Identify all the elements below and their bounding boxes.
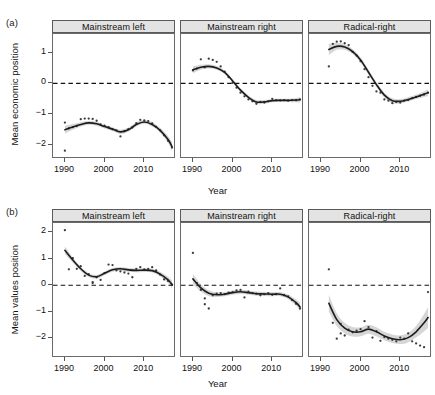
- y-tick-label-b-1: 1: [22, 252, 46, 262]
- data-point: [80, 118, 82, 120]
- data-point: [64, 229, 66, 231]
- y-tick-label-a-3: −2: [22, 138, 46, 148]
- x-tick-label-b-0-2: 2010: [127, 363, 159, 373]
- panel-plot-svg-b-1: [181, 223, 303, 357]
- data-point: [328, 65, 330, 67]
- data-point: [84, 275, 86, 277]
- x-tick-label-b-1-0: 1990: [176, 363, 208, 373]
- confidence-ribbon-b-0: [65, 247, 172, 289]
- x-tick-mark-b-1-2: [271, 357, 272, 361]
- y-tick-label-a-2: −1: [22, 107, 46, 117]
- x-tick-label-a-2-0: 1990: [304, 164, 336, 174]
- x-tick-label-b-2-0: 1990: [304, 363, 336, 373]
- plot-panel-b-1: [180, 222, 303, 357]
- data-point: [239, 289, 241, 291]
- x-tick-mark-b-1-1: [232, 357, 233, 361]
- facet-strip-a-2: Radical-right: [308, 20, 431, 33]
- x-tick-mark-b-2-0: [320, 357, 321, 361]
- x-tick-mark-b-1-0: [192, 357, 193, 361]
- y-axis-title-a: Mean economic position: [9, 46, 20, 146]
- data-point: [243, 296, 245, 298]
- x-tick-mark-a-2-2: [399, 158, 400, 162]
- figure-root: (a)Mean economic position10−1−2Mainstrea…: [0, 0, 435, 395]
- confidence-ribbon-a-1: [193, 64, 300, 104]
- x-tick-mark-a-1-0: [192, 158, 193, 162]
- data-point: [271, 98, 273, 100]
- x-tick-label-b-0-1: 2000: [88, 363, 120, 373]
- data-point: [88, 117, 90, 119]
- data-point: [344, 334, 346, 336]
- data-point: [212, 59, 214, 61]
- x-tick-mark-a-1-1: [232, 158, 233, 162]
- data-point: [84, 117, 86, 119]
- panel-tag-b: (b): [6, 206, 18, 217]
- panel-plot-svg-b-2: [309, 223, 431, 357]
- data-point: [379, 340, 381, 342]
- data-point: [200, 58, 202, 60]
- y-tick-label-a-1: 0: [22, 76, 46, 86]
- x-tick-label-b-2-1: 2000: [344, 363, 376, 373]
- data-point: [407, 332, 409, 334]
- data-point: [367, 76, 369, 78]
- panel-plot-svg-b-0: [53, 223, 175, 357]
- data-point: [216, 61, 218, 63]
- x-tick-label-a-0-1: 2000: [88, 164, 120, 174]
- x-tick-mark-b-0-2: [143, 357, 144, 361]
- data-point: [119, 135, 121, 137]
- data-point: [99, 279, 101, 281]
- plot-panel-a-0: [52, 33, 175, 158]
- data-point: [332, 43, 334, 45]
- x-tick-label-a-2-2: 2010: [383, 164, 415, 174]
- plot-panel-b-2: [308, 222, 431, 357]
- data-point: [399, 336, 401, 338]
- facet-strip-b-1: Mainstream right: [180, 209, 303, 222]
- data-point: [127, 272, 129, 274]
- y-axis-title-b: Mean values position: [9, 240, 20, 340]
- data-point: [151, 266, 153, 268]
- data-point: [363, 320, 365, 322]
- x-axis-title-b: Year: [0, 378, 435, 389]
- data-point: [371, 85, 373, 87]
- x-tick-mark-a-1-2: [271, 158, 272, 162]
- data-point: [255, 103, 257, 105]
- y-tick-label-b-0: 2: [22, 225, 46, 235]
- data-point: [208, 307, 210, 309]
- confidence-ribbon-a-2: [329, 43, 428, 104]
- panel-tag-a: (a): [6, 17, 18, 28]
- x-tick-label-a-1-1: 2000: [216, 164, 248, 174]
- facet-strip-b-2: Radical-right: [308, 209, 431, 222]
- data-point: [375, 90, 377, 92]
- panel-plot-svg-a-1: [181, 34, 303, 158]
- data-point: [359, 328, 361, 330]
- x-tick-mark-b-2-1: [360, 357, 361, 361]
- data-point: [204, 303, 206, 305]
- x-tick-mark-a-0-1: [104, 158, 105, 162]
- data-point: [427, 291, 429, 293]
- x-axis-title-a: Year: [0, 185, 435, 196]
- x-tick-mark-b-0-1: [104, 357, 105, 361]
- x-tick-mark-a-2-0: [320, 158, 321, 162]
- data-point: [383, 98, 385, 100]
- x-tick-label-a-1-0: 1990: [176, 164, 208, 174]
- data-point: [111, 264, 113, 266]
- x-tick-label-a-2-1: 2000: [344, 164, 376, 174]
- data-point: [92, 281, 94, 283]
- data-point: [391, 102, 393, 104]
- data-point: [107, 263, 109, 265]
- data-point: [92, 118, 94, 120]
- data-point: [332, 322, 334, 324]
- data-point: [340, 332, 342, 334]
- x-tick-label-b-1-1: 2000: [216, 363, 248, 373]
- y-tick-label-b-2: 0: [22, 278, 46, 288]
- data-point: [371, 336, 373, 338]
- x-tick-label-a-0-0: 1990: [48, 164, 80, 174]
- data-point: [131, 276, 133, 278]
- data-point: [208, 58, 210, 60]
- data-point: [411, 340, 413, 342]
- facet-strip-b-0: Mainstream left: [52, 209, 175, 222]
- data-point: [76, 268, 78, 270]
- data-point: [419, 344, 421, 346]
- data-point: [279, 287, 281, 289]
- data-point: [328, 268, 330, 270]
- loess-trend-line-b-1: [193, 279, 300, 307]
